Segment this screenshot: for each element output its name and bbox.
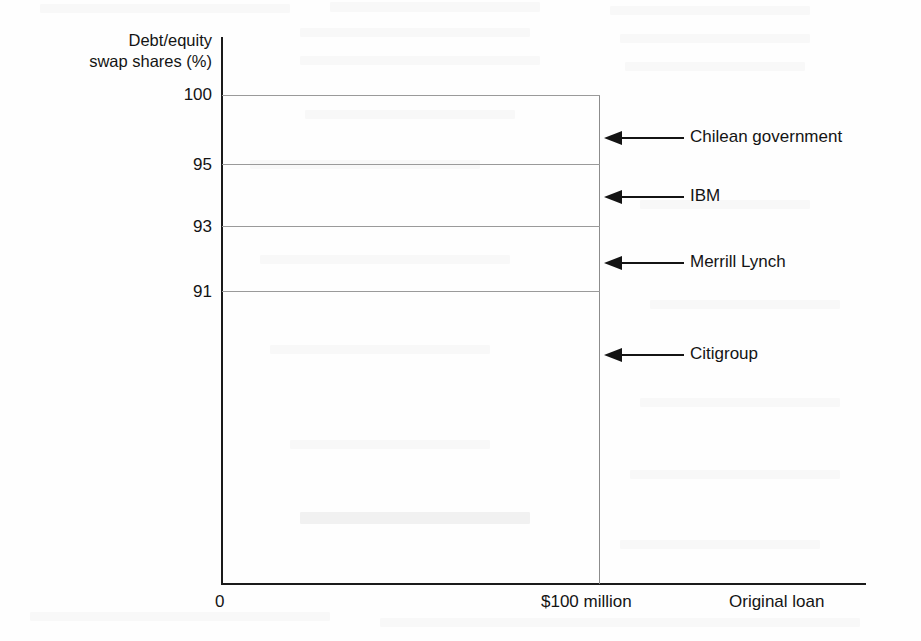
y-tick-label-91: 91 — [142, 282, 212, 302]
page-bleed-mark — [640, 398, 840, 407]
page-bleed-mark — [625, 62, 805, 71]
gridline-100 — [222, 95, 600, 96]
page-bleed-mark — [300, 512, 530, 524]
page-bleed-mark — [650, 300, 840, 309]
y-tick-label-93: 93 — [142, 217, 212, 237]
page-bleed-mark — [620, 540, 820, 549]
plot-right-edge-line — [599, 95, 600, 584]
arrow-shaft — [620, 196, 684, 198]
page-bleed-mark — [300, 56, 540, 65]
x-axis-line — [221, 583, 866, 585]
gridline-91 — [222, 291, 600, 292]
x-tick-label-100-million: $100 million — [541, 592, 632, 612]
page-bleed-mark — [290, 440, 490, 449]
page-bleed-mark — [300, 28, 530, 37]
page-bleed-mark — [305, 110, 515, 119]
callout-label-ibm: IBM — [690, 186, 720, 206]
y-axis-line — [221, 37, 223, 585]
page-bleed-mark — [380, 618, 860, 627]
y-axis-title: Debt/equity swap shares (%) — [20, 30, 212, 72]
page-bleed-mark — [630, 470, 840, 479]
page-bleed-mark — [30, 612, 330, 621]
gridline-95 — [222, 164, 600, 165]
y-tick-label-95: 95 — [142, 155, 212, 175]
arrow-shaft — [620, 262, 684, 264]
gridline-93 — [222, 226, 600, 227]
arrow-shaft — [620, 354, 684, 356]
x-tick-label-zero: 0 — [215, 592, 224, 612]
page-bleed-mark — [620, 34, 810, 43]
page-bleed-mark — [640, 200, 810, 209]
debt-equity-swap-chart: Debt/equity swap shares (%) 100 95 93 91… — [0, 0, 921, 641]
page-bleed-mark — [610, 6, 810, 15]
page-bleed-mark — [270, 345, 490, 354]
callout-label-citigroup: Citigroup — [690, 344, 758, 364]
callout-label-chilean-government: Chilean government — [690, 127, 842, 147]
x-tick-label-original-loan: Original loan — [729, 592, 824, 612]
page-bleed-mark — [330, 2, 540, 12]
arrow-shaft — [620, 137, 684, 139]
y-tick-label-100: 100 — [142, 85, 212, 105]
page-bleed-mark — [260, 255, 510, 264]
callout-label-merrill-lynch: Merrill Lynch — [690, 252, 786, 272]
page-bleed-mark — [40, 4, 290, 13]
